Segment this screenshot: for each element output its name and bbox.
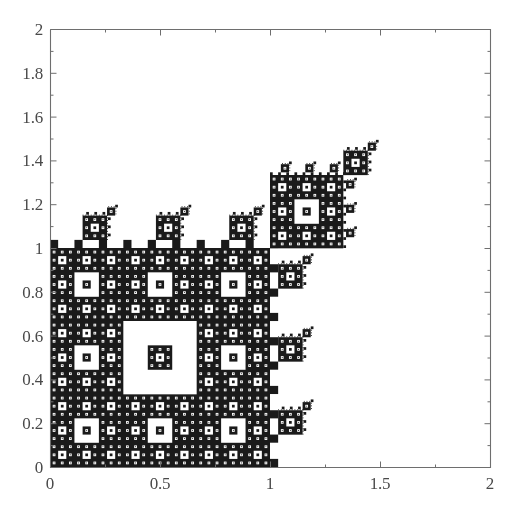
x-tick-label: 1.5 — [370, 475, 391, 492]
y-tick-label: 1.2 — [0, 196, 43, 213]
y-tick-label: 0.2 — [0, 415, 43, 432]
y-tick-label: 0 — [0, 459, 43, 476]
y-tick-label: 1.6 — [0, 108, 43, 125]
x-tick-label: 0 — [46, 475, 54, 492]
x-tick-label: 1 — [266, 475, 274, 492]
figure-container: 00.20.40.60.811.21.41.61.8200.511.52 — [0, 0, 509, 507]
y-tick-label: 1 — [0, 240, 43, 257]
x-tick-label: 2 — [486, 475, 494, 492]
y-tick-label: 0.8 — [0, 283, 43, 300]
fractal-plot-canvas — [0, 0, 509, 507]
x-tick-label: 0.5 — [150, 475, 171, 492]
y-tick-label: 0.6 — [0, 327, 43, 344]
y-tick-label: 1.4 — [0, 152, 43, 169]
y-tick-label: 1.8 — [0, 64, 43, 81]
y-tick-label: 2 — [0, 21, 43, 38]
y-tick-label: 0.4 — [0, 371, 43, 388]
